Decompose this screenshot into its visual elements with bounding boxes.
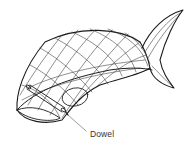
tail-fin — [142, 10, 183, 88]
wire-mesh — [20, 29, 150, 118]
dowel-leader-line — [68, 115, 86, 131]
dowel-label: Dowel — [90, 129, 114, 139]
inner-oval — [60, 85, 89, 108]
fish-frame-diagram: Dowel — [0, 0, 194, 151]
